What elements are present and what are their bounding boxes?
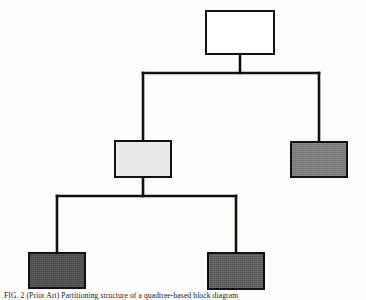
halftone-texture-overlay bbox=[209, 254, 263, 288]
figure-container: FIG. 2 (Prior Art) Partitioning structur… bbox=[0, 0, 366, 300]
halftone-texture-overlay bbox=[292, 143, 346, 176]
figure-caption: FIG. 2 (Prior Art) Partitioning structur… bbox=[4, 291, 362, 300]
tree-node-level1-right[interactable] bbox=[290, 141, 348, 178]
tree-node-level1-left[interactable] bbox=[114, 140, 172, 178]
tree-node-level2-left[interactable] bbox=[28, 252, 86, 289]
tree-node-root[interactable] bbox=[205, 10, 275, 55]
halftone-texture-overlay bbox=[30, 254, 84, 287]
tree-node-level2-right[interactable] bbox=[207, 252, 265, 290]
